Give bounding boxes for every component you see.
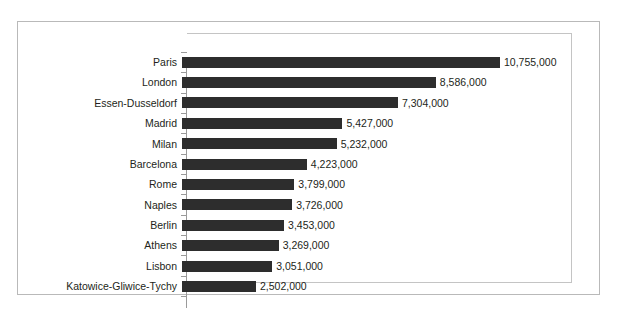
axis-tick — [181, 194, 187, 195]
axis-tick — [181, 133, 187, 134]
category-label: Essen-Dusseldorf — [18, 98, 182, 109]
category-label: Naples — [18, 200, 182, 211]
axis-tick — [181, 154, 187, 155]
category-label: Milan — [18, 139, 182, 150]
category-label: Madrid — [18, 118, 182, 129]
bar-track: 3,453,000 — [182, 215, 601, 235]
bar-row: Rome3,799,000 — [18, 174, 601, 194]
value-label: 5,427,000 — [342, 118, 393, 129]
category-label: Berlin — [18, 220, 182, 231]
bar — [182, 138, 337, 149]
bar — [182, 261, 272, 272]
bar-track: 7,304,000 — [182, 93, 601, 113]
bar — [182, 179, 294, 190]
value-label: 4,223,000 — [307, 159, 358, 170]
axis-tick — [181, 93, 187, 94]
bar-track: 2,502,000 — [182, 276, 601, 296]
bar — [182, 159, 307, 170]
bar — [182, 77, 436, 88]
axis-tick — [181, 113, 187, 114]
bar-track: 3,269,000 — [182, 236, 601, 256]
axis-tick — [181, 72, 187, 73]
bar-track: 3,799,000 — [182, 174, 601, 194]
bar-row: Athens3,269,000 — [18, 236, 601, 256]
axis-tick — [181, 255, 187, 256]
bar-row: Milan5,232,000 — [18, 134, 601, 154]
bar-chart: Paris10,755,000London8,586,000Essen-Duss… — [18, 52, 601, 296]
bar-track: 10,755,000 — [182, 52, 601, 72]
value-label: 3,051,000 — [272, 261, 323, 272]
bar-row: Lisbon3,051,000 — [18, 256, 601, 276]
bar-row: London8,586,000 — [18, 72, 601, 92]
bar — [182, 118, 342, 129]
bar — [182, 199, 292, 210]
category-label: Athens — [18, 240, 182, 251]
bar-track: 3,051,000 — [182, 256, 601, 276]
bar-track: 5,427,000 — [182, 113, 601, 133]
axis-tick — [181, 174, 187, 175]
bar-row: Katowice-Gliwice-Tychy2,502,000 — [18, 276, 601, 296]
category-label: Lisbon — [18, 261, 182, 272]
bar-row: Essen-Dusseldorf7,304,000 — [18, 93, 601, 113]
bar — [182, 97, 398, 108]
bar-track: 8,586,000 — [182, 72, 601, 92]
value-label: 2,502,000 — [256, 281, 307, 292]
category-label: Katowice-Gliwice-Tychy — [18, 281, 182, 292]
category-label: Barcelona — [18, 159, 182, 170]
bar-row: Berlin3,453,000 — [18, 215, 601, 235]
value-label: 3,799,000 — [294, 179, 345, 190]
bar-track: 4,223,000 — [182, 154, 601, 174]
axis-tick — [181, 52, 187, 53]
axis-tick — [181, 215, 187, 216]
axis-tick — [181, 296, 187, 297]
chart-figure-frame: Paris10,755,000London8,586,000Essen-Duss… — [17, 21, 600, 295]
bar-track: 5,232,000 — [182, 134, 601, 154]
value-label: 10,755,000 — [500, 57, 557, 68]
bar — [182, 281, 256, 292]
category-label: Rome — [18, 179, 182, 190]
category-label: Paris — [18, 57, 182, 68]
value-label: 8,586,000 — [436, 77, 487, 88]
value-label: 7,304,000 — [398, 98, 449, 109]
axis-tick — [181, 276, 187, 277]
bar-row: Barcelona4,223,000 — [18, 154, 601, 174]
value-label: 3,453,000 — [284, 220, 335, 231]
bar-row: Madrid5,427,000 — [18, 113, 601, 133]
bar — [182, 220, 284, 231]
bar — [182, 57, 500, 68]
value-label: 3,269,000 — [279, 240, 330, 251]
bar-track: 3,726,000 — [182, 195, 601, 215]
bar — [182, 240, 279, 251]
value-label: 5,232,000 — [337, 139, 388, 150]
category-label: London — [18, 77, 182, 88]
bar-row: Naples3,726,000 — [18, 195, 601, 215]
axis-tick — [181, 235, 187, 236]
bar-row: Paris10,755,000 — [18, 52, 601, 72]
value-label: 3,726,000 — [292, 200, 343, 211]
